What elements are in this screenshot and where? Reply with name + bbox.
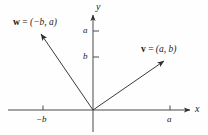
- vector-v-label: v = (a, b): [141, 45, 176, 55]
- vector-diagram-figure: x y −b a a b w = (−b, a) v = (a, b): [0, 0, 208, 135]
- y-axis: [93, 15, 99, 132]
- vector-w-equals: =: [20, 17, 30, 27]
- vector-v-equals: =: [146, 44, 156, 54]
- vector-w-arrow: [41, 34, 93, 110]
- vector-v-components: (a, b): [156, 44, 177, 54]
- x-tick-label-a: a: [167, 115, 172, 124]
- vector-w-components: (−b, a): [30, 17, 57, 27]
- vector-v-arrow: [93, 61, 164, 110]
- vector-w-name: w: [13, 17, 20, 27]
- vector-w-label: w = (−b, a): [13, 18, 57, 28]
- y-tick-label-a: a: [83, 26, 88, 35]
- y-tick-label-b: b: [83, 52, 88, 61]
- y-axis-label: y: [96, 2, 100, 12]
- x-axis-label: x: [195, 104, 199, 114]
- x-tick-label-negative-b: −b: [36, 115, 47, 124]
